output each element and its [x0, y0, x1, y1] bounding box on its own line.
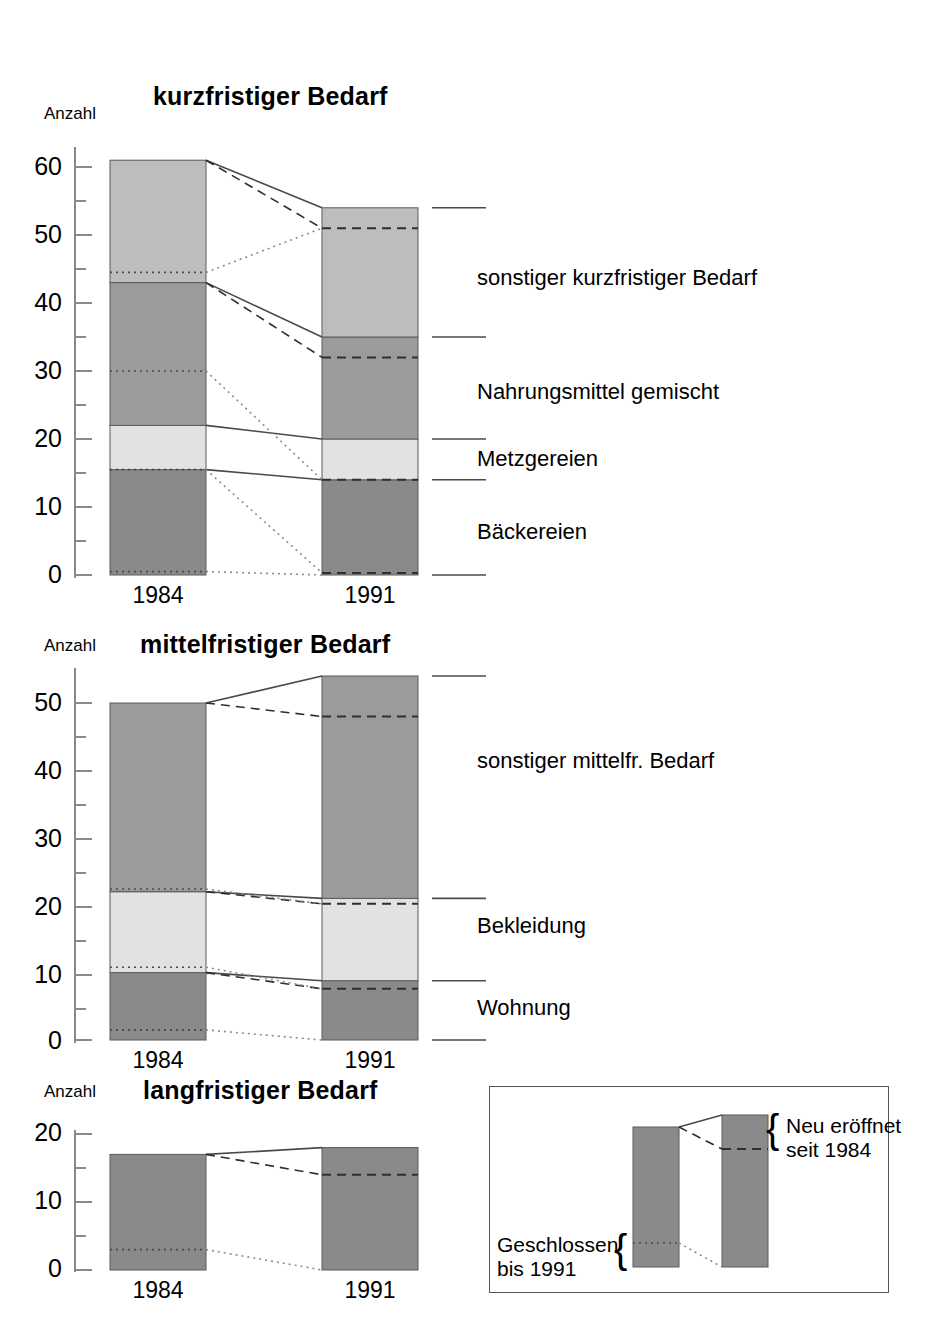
- chart3-yaxis: [75, 1130, 92, 1272]
- key-label-closed-line1: Geschlossen: [497, 1233, 618, 1256]
- legend-key-box: { Neu eröffnet seit 1984 { Geschlossen b…: [489, 1086, 889, 1293]
- key-label-closed: Geschlossen bis 1991: [497, 1233, 618, 1281]
- chart3-connector-solid: [206, 1148, 322, 1155]
- key-label-new-line1: Neu eröffnet: [786, 1114, 901, 1137]
- chart2-legend-sonstiger: sonstiger mittelfr. Bedarf: [477, 748, 714, 774]
- key-label-new-line2: seit 1984: [786, 1138, 871, 1161]
- chart3-bar-1984: [110, 1154, 206, 1270]
- chart3-connector-dotted: [206, 1250, 322, 1270]
- key-label-new: Neu eröffnet seit 1984: [786, 1114, 901, 1162]
- chart3-graphic: [0, 0, 500, 1331]
- key-label-closed-line2: bis 1991: [497, 1257, 576, 1280]
- chart-panel-langfristig: langfristiger Bedarf Anzahl 20 10 0: [0, 0, 500, 1331]
- chart3-connector-dashed: [206, 1154, 322, 1174]
- chart3-bar-1991: [322, 1148, 418, 1270]
- key-brace-new: {: [766, 1109, 779, 1149]
- chart3-xtick-1991: 1991: [322, 1277, 418, 1304]
- chart3-xtick-1984: 1984: [110, 1277, 206, 1304]
